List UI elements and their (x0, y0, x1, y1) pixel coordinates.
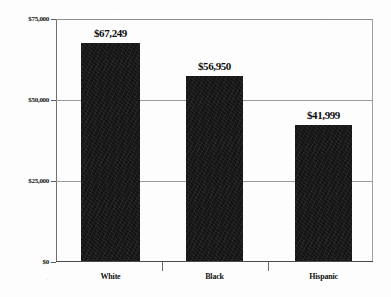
bar-black (186, 76, 243, 261)
plot-area: $0$25,000$50,000$75,000 $67,249$56,950$4… (56, 19, 373, 262)
y-axis-tick-label: $25,000 (28, 177, 49, 185)
bar-hispanic (295, 125, 352, 261)
chart-figure: $0$25,000$50,000$75,000 $67,249$56,950$4… (0, 0, 391, 297)
category-label-hispanic: Hispanic (309, 272, 338, 281)
y-axis-tick (51, 262, 56, 263)
y-axis-tick-label: $75,000 (28, 15, 49, 23)
category-label-white: White (101, 272, 121, 281)
bar-value-label: $41,999 (307, 109, 340, 121)
category-label-black: Black (205, 272, 224, 281)
plot-top-border (56, 19, 373, 20)
category-separator-tick (268, 262, 269, 271)
y-axis-line (56, 19, 57, 262)
y-axis-tick-label: $50,000 (28, 96, 49, 104)
bar-white (81, 43, 140, 261)
y-axis-tick (51, 19, 56, 20)
category-separator-tick (162, 262, 163, 271)
plot-right-border (372, 19, 373, 262)
bar-value-label: $56,950 (198, 60, 231, 72)
y-axis-tick-label: $0 (43, 258, 49, 266)
y-axis-tick (51, 181, 56, 182)
x-axis-line (56, 261, 373, 262)
bar-value-label: $67,249 (94, 27, 127, 39)
y-axis-tick (51, 100, 56, 101)
